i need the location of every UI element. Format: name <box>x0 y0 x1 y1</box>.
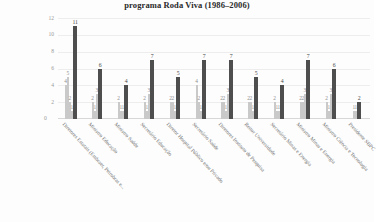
bar-group: 2114 <box>266 18 292 119</box>
bar-major: 5 <box>254 18 258 119</box>
bar-major: 4 <box>124 18 128 119</box>
bar-major: 7 <box>202 18 206 119</box>
bar-value-label: 6 <box>99 63 102 68</box>
category-label: Ministro Ciência e Tecnologia <box>321 121 369 172</box>
bar-fill <box>176 77 180 119</box>
bar-fill <box>332 69 336 120</box>
bar-major: 5 <box>176 18 180 119</box>
bar-fill <box>150 60 154 119</box>
bar-fill <box>254 77 258 119</box>
bar-value-label: 7 <box>307 54 310 59</box>
bar-group: 22137 <box>214 18 240 119</box>
y-tick-zero: 0 <box>44 115 47 121</box>
bar-major: 4 <box>280 18 284 119</box>
category-label: Ministro Saúde <box>113 121 140 149</box>
bar-fill <box>73 26 77 119</box>
bar-group: 2237 <box>292 18 318 119</box>
category-labels: Diretores Estatais (Embraer, Petrobras e… <box>58 121 370 222</box>
category-label: Presidente SBPC <box>347 121 376 152</box>
bar-value-label: 11 <box>72 20 78 25</box>
y-tick-label: 6 <box>36 66 54 71</box>
bar-major: 6 <box>98 18 102 119</box>
category-label: Secretário Saúde <box>191 121 220 151</box>
bar-fill <box>280 85 284 119</box>
bar-group: 2215 <box>162 18 188 119</box>
bar-group: 2215 <box>240 18 266 119</box>
bar-group: 112 <box>344 18 370 119</box>
category-label: Diretor Hospital Público e/ou Privado <box>165 121 224 184</box>
plot-area: 12108642 4521112136211421372215421722137… <box>58 18 370 119</box>
y-tick-label: 4 <box>36 83 54 88</box>
bar-group: 452111 <box>58 18 84 119</box>
bar-group: 2137 <box>136 18 162 119</box>
y-tick-label: 8 <box>36 49 54 54</box>
bar-major: 2 <box>357 18 361 119</box>
bar-value-label: 5 <box>177 71 180 76</box>
y-tick-label: 2 <box>36 100 54 105</box>
bar-group: 2136 <box>84 18 110 119</box>
bar-value-label: 7 <box>151 54 154 59</box>
bar-value-label: 7 <box>230 54 233 59</box>
chart-title: programa Roda Viva (1986–2006) <box>0 0 374 11</box>
bar-value-label: 4 <box>281 79 284 84</box>
bar-value-label: 5 <box>255 71 258 76</box>
bar-major: 7 <box>306 18 310 119</box>
bar-fill <box>124 85 128 119</box>
bar-value-label: 4 <box>125 79 128 84</box>
bar-group: 2136 <box>318 18 344 119</box>
bar-major: 11 <box>73 18 77 119</box>
bar-fill <box>98 69 102 120</box>
bar-group: 4217 <box>188 18 214 119</box>
bar-group: 2114 <box>110 18 136 119</box>
bar-fill <box>202 60 206 119</box>
bar-value-label: 7 <box>203 54 206 59</box>
y-tick-label: 10 <box>36 32 54 37</box>
bar-major: 7 <box>229 18 233 119</box>
bar-value-label: 6 <box>333 63 336 68</box>
y-tick-label: 12 <box>36 16 54 21</box>
bar-value-label: 2 <box>358 96 361 101</box>
bar-fill <box>306 60 310 119</box>
bar-groups: 4521112136211421372215421722137221521142… <box>58 18 370 119</box>
bar-major: 7 <box>150 18 154 119</box>
bar-fill <box>229 60 233 119</box>
bar-fill <box>357 102 361 119</box>
category-label: Diretores Instituto de Pesquisa <box>217 121 266 173</box>
bar-major: 6 <box>332 18 336 119</box>
